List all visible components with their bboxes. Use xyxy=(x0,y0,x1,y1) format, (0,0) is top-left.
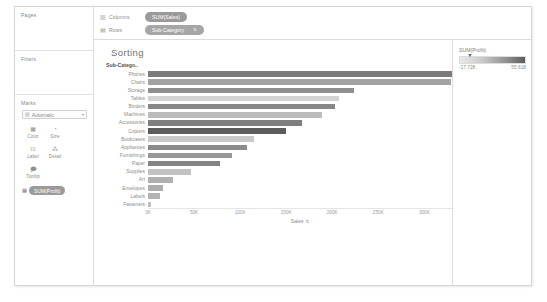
bar-row xyxy=(148,127,452,135)
row-label[interactable]: Art xyxy=(104,176,148,184)
bar-row xyxy=(148,160,452,168)
axis-sort-icon[interactable]: ⇅ xyxy=(306,219,310,224)
x-tick-label: 0K xyxy=(145,210,151,215)
marks-button-color-label: Color xyxy=(27,134,38,139)
bar-row xyxy=(148,168,452,176)
bar-mark[interactable] xyxy=(148,202,151,208)
marks-button-detail[interactable]: ⁂ Detail xyxy=(44,144,66,159)
detail-icon: ⁂ xyxy=(51,144,60,153)
bar-mark[interactable] xyxy=(148,161,220,167)
row-label[interactable]: Furnishings xyxy=(104,151,148,159)
marks-button-label-label: Label xyxy=(27,154,39,159)
bar-row xyxy=(148,176,452,184)
row-label[interactable]: Copiers xyxy=(104,127,148,135)
viz-canvas[interactable]: Sorting Sub-Catego.. PhonesChairsStorage… xyxy=(94,40,452,285)
marks-button-color[interactable]: ▦ Color xyxy=(22,124,44,139)
filters-shelf[interactable]: Filters xyxy=(15,51,93,95)
bar-row xyxy=(148,111,452,119)
chevron-down-icon: ▾ xyxy=(82,112,84,117)
marks-card-label: Marks xyxy=(21,100,88,106)
row-label[interactable]: Appliances xyxy=(104,143,148,151)
row-label[interactable]: Accessories xyxy=(104,119,148,127)
bar-mark[interactable] xyxy=(148,120,302,126)
bar-mark[interactable] xyxy=(148,145,247,151)
x-axis-label[interactable]: Sales⇅ xyxy=(148,218,452,224)
canvas-wrapper: Sorting Sub-Catego.. PhonesChairsStorage… xyxy=(94,40,531,285)
bar-row xyxy=(148,78,452,86)
row-label[interactable]: Binders xyxy=(104,103,148,111)
row-label[interactable]: Supplies xyxy=(104,168,148,176)
x-tick-label: 100K xyxy=(235,210,246,215)
color-encoding-icon: ▦ xyxy=(22,188,27,193)
mark-type-dropdown[interactable]: ▥ Automatic ▾ xyxy=(22,110,87,119)
bar-mark[interactable] xyxy=(148,177,173,183)
bar-column xyxy=(148,70,452,208)
marks-button-size[interactable]: ◔ Size xyxy=(44,124,66,139)
bar-mark[interactable] xyxy=(148,96,339,102)
legend-values: -17,728 55,618 xyxy=(459,65,526,70)
worksheet-column: ▥ Columns SUM(Sales) ▤ Rows Sub-Category… xyxy=(94,7,531,285)
bar-mark[interactable] xyxy=(148,128,286,134)
bar-row xyxy=(148,192,452,200)
rows-shelf-label: Rows xyxy=(109,27,145,33)
bar-mark[interactable] xyxy=(148,136,254,142)
rows-icon: ▤ xyxy=(100,27,109,33)
shelf-area: ▥ Columns SUM(Sales) ▤ Rows Sub-Category… xyxy=(94,7,531,40)
row-label[interactable]: Storage xyxy=(104,86,148,94)
marks-encoding-row-color[interactable]: ▦ SUM(Profit) xyxy=(21,186,88,195)
x-axis-label-text: Sales xyxy=(291,218,304,224)
legend-color-ramp[interactable] xyxy=(459,56,526,64)
bar-mark[interactable] xyxy=(148,79,451,85)
bar-mark[interactable] xyxy=(148,193,160,199)
bar-mark[interactable] xyxy=(148,169,191,175)
marks-button-tooltip[interactable]: 🗩 Tooltip xyxy=(22,164,44,179)
bar-row xyxy=(148,200,452,208)
x-tick-label: 300K xyxy=(419,210,430,215)
legend-marker-triangle-icon xyxy=(468,54,472,57)
legend-max-value: 55,618 xyxy=(511,65,526,70)
bar-mark[interactable] xyxy=(148,112,322,118)
sort-icon[interactable]: ⇅ xyxy=(193,27,197,32)
mark-type-value: Automatic xyxy=(32,112,82,118)
pages-shelf[interactable]: Pages xyxy=(15,7,93,51)
x-axis-ticks: 0K50K100K150K200K250K300K xyxy=(148,209,452,218)
row-label[interactable]: Phones xyxy=(104,70,148,78)
row-label[interactable]: Machines xyxy=(104,111,148,119)
row-label[interactable]: Fasteners xyxy=(104,200,148,208)
columns-pill-sum-sales[interactable]: SUM(Sales) xyxy=(145,12,187,22)
row-label[interactable]: Chairs xyxy=(104,78,148,86)
columns-shelf[interactable]: ▥ Columns SUM(Sales) xyxy=(94,10,531,23)
bar-mark[interactable] xyxy=(148,153,232,159)
row-label[interactable]: Tables xyxy=(104,94,148,102)
bar-mark[interactable] xyxy=(148,104,335,110)
marks-button-grid: ▦ Color ◔ Size ⊡ Label ⁂ Detail 🗩 Too xyxy=(21,124,88,184)
marks-button-label[interactable]: ⊡ Label xyxy=(22,144,44,159)
row-label[interactable]: Bookcases xyxy=(104,135,148,143)
legend-panel: SUM(Profit) -17,728 55,618 xyxy=(452,40,531,285)
filters-shelf-label: Filters xyxy=(21,56,88,62)
bar-mark[interactable] xyxy=(148,88,354,94)
bar-row xyxy=(148,70,452,78)
rows-shelf[interactable]: ▤ Rows Sub-Category ⇅ xyxy=(94,23,531,36)
row-label[interactable]: Paper xyxy=(104,160,148,168)
legend-min-value: -17,728 xyxy=(459,65,475,70)
x-tick-label: 200K xyxy=(327,210,338,215)
size-icon: ◔ xyxy=(51,124,60,133)
pages-shelf-label: Pages xyxy=(21,12,88,18)
bar-mark[interactable] xyxy=(148,185,163,191)
marks-pill-sum-profit[interactable]: SUM(Profit) xyxy=(29,186,65,195)
tableau-window: Pages Filters Marks ▥ Automatic ▾ ▦ Colo… xyxy=(14,6,532,286)
rows-pill-sub-category[interactable]: Sub-Category ⇅ xyxy=(145,25,204,35)
row-label[interactable]: Envelopes xyxy=(104,184,148,192)
x-tick-label: 50K xyxy=(190,210,198,215)
x-tick-label: 250K xyxy=(373,210,384,215)
row-label[interactable]: Labels xyxy=(104,192,148,200)
columns-icon: ▥ xyxy=(100,14,109,20)
marks-button-size-label: Size xyxy=(50,134,59,139)
marks-button-detail-label: Detail xyxy=(49,154,61,159)
bar-mark[interactable] xyxy=(148,71,452,77)
label-icon: ⊡ xyxy=(29,144,38,153)
bar-row xyxy=(148,103,452,111)
plot-area: PhonesChairsStorageTablesBindersMachines… xyxy=(104,70,452,208)
row-header-title: Sub-Catego.. xyxy=(106,62,452,68)
